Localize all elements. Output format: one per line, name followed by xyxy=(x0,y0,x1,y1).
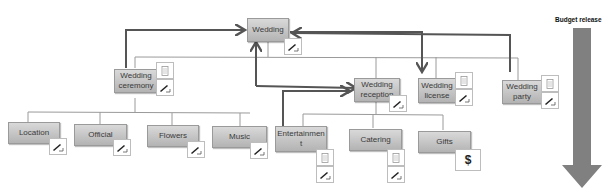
document-icon[interactable] xyxy=(316,149,334,166)
pen-icon[interactable] xyxy=(387,166,405,183)
node-label: Wedding xyxy=(252,25,283,35)
pen-icon[interactable] xyxy=(455,89,473,106)
node-label: Gifts xyxy=(436,137,452,147)
node-label: Wedding party xyxy=(503,82,541,102)
document-icon[interactable] xyxy=(387,149,405,166)
pen-icon[interactable] xyxy=(250,142,268,159)
node-wedding-party[interactable]: Wedding party xyxy=(502,80,542,104)
pen-icon[interactable] xyxy=(389,95,407,112)
pen-icon[interactable] xyxy=(316,166,334,183)
node-label: Wedding license xyxy=(419,81,455,101)
dollar-glyph: $ xyxy=(465,153,472,167)
pen-icon[interactable] xyxy=(284,38,302,55)
node-label: Location xyxy=(19,128,49,138)
pen-icon[interactable] xyxy=(113,139,131,156)
node-label: Music xyxy=(229,132,250,142)
pen-icon[interactable] xyxy=(49,138,67,155)
node-catering[interactable]: Catering xyxy=(349,129,402,151)
node-wedding[interactable]: Wedding xyxy=(247,18,289,42)
node-label: Official xyxy=(88,130,112,140)
node-label: Wedding ceremony xyxy=(115,71,157,91)
dollar-icon[interactable]: $ xyxy=(455,149,481,171)
node-wedding-license[interactable]: Wedding license xyxy=(418,78,456,103)
document-icon[interactable] xyxy=(455,72,473,89)
budget-arrow xyxy=(562,28,602,188)
node-wedding-ceremony[interactable]: Wedding ceremony xyxy=(114,69,158,93)
budget-release-label: Budget release xyxy=(555,16,602,23)
pen-icon[interactable] xyxy=(156,79,174,96)
document-icon[interactable] xyxy=(156,62,174,79)
pen-icon[interactable] xyxy=(541,92,559,109)
document-icon[interactable] xyxy=(541,75,559,92)
pen-icon[interactable] xyxy=(187,141,205,158)
node-label: Entertainmen t xyxy=(276,129,326,149)
node-label: Catering xyxy=(360,135,390,145)
node-label: Flowers xyxy=(159,131,187,141)
